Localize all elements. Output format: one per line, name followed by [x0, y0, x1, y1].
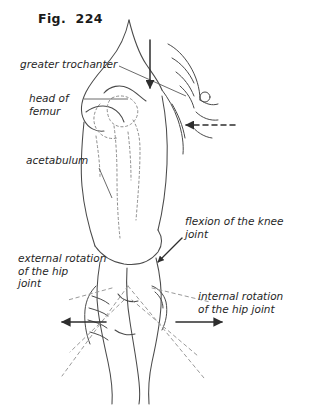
- femur-bone-outline: [94, 96, 140, 238]
- rotation-range-lines: [62, 286, 210, 378]
- label-head-of-femur: head of femur: [29, 92, 69, 117]
- label-acetabulum: acetabulum: [26, 154, 88, 167]
- label-greater-trochanter: greater trochanter: [20, 58, 117, 71]
- label-internal-rotation-of-hip-joint: internal rotation of the hip joint: [198, 290, 283, 315]
- label-external-rotation-of-hip-joint: external rotation of the hip joint: [18, 252, 106, 290]
- leg-outline-group: [81, 20, 167, 404]
- figure-container: Fig. 224: [0, 0, 312, 420]
- leader-line-greater-trochanter: [119, 66, 186, 96]
- label-flexion-of-knee-joint: flexion of the knee joint: [185, 215, 283, 240]
- leader-line-acetabulum: [99, 168, 112, 198]
